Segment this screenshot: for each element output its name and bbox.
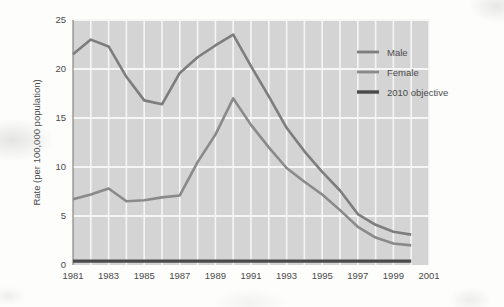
y-tick-label: 15 <box>55 112 66 123</box>
x-tick-label: 1991 <box>240 270 261 281</box>
y-tick-label: 25 <box>55 14 66 25</box>
x-tick-label: 1999 <box>383 270 404 281</box>
y-tick-label: 5 <box>61 210 66 221</box>
x-tick-label: 1985 <box>134 270 155 281</box>
legend-label-female: Female <box>387 67 419 78</box>
line-chart: 0510152025198119831985198719891991199319… <box>0 0 504 307</box>
x-tick-label: 1993 <box>276 270 297 281</box>
y-tick-label: 10 <box>55 161 66 172</box>
y-axis-title: Rate (per 100,000 population) <box>31 79 42 205</box>
y-tick-label: 20 <box>55 63 66 74</box>
x-tick-label: 1995 <box>312 270 333 281</box>
x-tick-label: 2001 <box>418 270 439 281</box>
legend-label-2010-objective: 2010 objective <box>387 87 448 98</box>
x-tick-label: 1983 <box>98 270 119 281</box>
y-tick-label: 0 <box>61 259 66 270</box>
x-tick-label: 1997 <box>347 270 368 281</box>
legend-label-male: Male <box>387 47 408 58</box>
y-axis-tick-labels: 0510152025 <box>55 14 66 270</box>
x-axis-tick-labels: 1981198319851987198919911993199519971999… <box>62 270 439 281</box>
x-tick-label: 1987 <box>169 270 190 281</box>
x-tick-label: 1981 <box>62 270 83 281</box>
x-tick-label: 1989 <box>205 270 226 281</box>
